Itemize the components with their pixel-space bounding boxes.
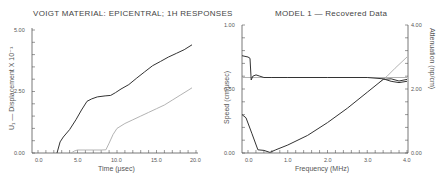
right-ytick-right-1: 2.00	[411, 86, 422, 92]
left-xtick-1: 5.0	[74, 157, 82, 163]
left-ytick-0: 0.00	[14, 150, 25, 156]
left-ylabel: U₁ — Displacement X 10⁻¹	[8, 47, 16, 130]
left-xtick-2: 10.0	[111, 157, 122, 163]
right-chart-panel: MODEL 1 — Recovered Data 0.00 0.50 1.00 …	[220, 0, 440, 182]
left-xtick-4: 20.0	[190, 157, 201, 163]
left-xlabel: Time (μsec)	[98, 165, 135, 172]
left-chart-plot	[0, 0, 220, 182]
left-ytick-2: 5.00	[14, 27, 25, 33]
left-chart-panel: VOIGT MATERIAL: EPICENTRAL; 1H RESPONSES…	[0, 0, 220, 182]
right-ytick-right-2: 4.00	[411, 22, 422, 28]
right-xtick-0: 0.0	[245, 157, 253, 163]
right-xlabel: Frequency (MHz)	[295, 165, 349, 172]
right-chart-plot	[220, 0, 440, 182]
right-ytick-left-2: 1.00	[224, 22, 235, 28]
right-xtick-3: 3.0	[364, 157, 372, 163]
left-xtick-0: 0.0	[35, 157, 43, 163]
right-ylabel-right: Attenuation (np/cm)	[429, 28, 436, 89]
right-ytick-right-0: 0.00	[411, 150, 422, 156]
right-ytick-left-0: 0.00	[224, 150, 235, 156]
right-xtick-1: 1.0	[284, 157, 292, 163]
right-ylabel-left: Speed (cm/μsec)	[223, 71, 230, 124]
right-xtick-4: 4.0	[403, 157, 411, 163]
left-xtick-3: 15.0	[151, 157, 162, 163]
right-xtick-2: 2.0	[324, 157, 332, 163]
